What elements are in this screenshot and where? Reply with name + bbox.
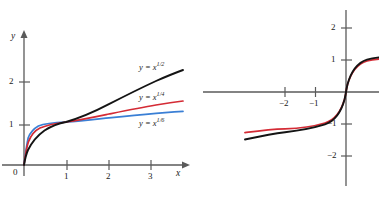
curve-label-x-pow-1-6: y = x1/6 bbox=[139, 119, 164, 128]
left-x-tick-3: 3 bbox=[148, 172, 153, 181]
right-y-tick-1: 1 bbox=[331, 55, 336, 64]
left-x-axis-label: x bbox=[176, 169, 180, 179]
curve-label-x-pow-1-2-exp: 1/2 bbox=[157, 60, 165, 67]
left-y-axis-label: y bbox=[11, 32, 15, 42]
curve-label-x-pow-1-4-lhs: y = x bbox=[139, 92, 157, 102]
right-y-tick-2: 2 bbox=[331, 23, 336, 32]
left-y-tick-1: 1 bbox=[9, 120, 14, 129]
left-panel-plot bbox=[0, 0, 195, 197]
left-x-tick-2: 2 bbox=[106, 172, 111, 181]
right-y-tick-neg1: −1 bbox=[327, 119, 337, 128]
left-axes bbox=[2, 30, 190, 176]
right-y-tick-neg2: −2 bbox=[327, 151, 337, 160]
curve-label-x-pow-1-6-exp: 1/6 bbox=[157, 116, 165, 123]
curve-label-x-pow-1-2-lhs: y = x bbox=[139, 62, 157, 72]
curve-x-pow-1-5 bbox=[245, 59, 379, 133]
even-roots-panel: y x 0 1 2 3 1 2 y = x1/2 y = x1/4 y = x1… bbox=[0, 0, 195, 197]
left-y-tick-2: 2 bbox=[9, 77, 14, 86]
right-axes bbox=[203, 10, 379, 186]
left-origin-label: 0 bbox=[13, 168, 18, 177]
curve-x-pow-1-4 bbox=[24, 101, 183, 165]
curve-label-x-pow-1-2: y = x1/2 bbox=[139, 63, 164, 72]
right-x-tick-neg2: −2 bbox=[279, 99, 289, 108]
left-x-tick-1: 1 bbox=[64, 172, 69, 181]
curve-label-x-pow-1-4: y = x1/4 bbox=[139, 93, 164, 102]
root-functions-figure: y x 0 1 2 3 1 2 y = x1/2 y = x1/4 y = x1… bbox=[0, 0, 379, 197]
odd-roots-panel: −2 −1 2 1 −1 −2 bbox=[195, 0, 379, 197]
curve-label-x-pow-1-4-exp: 1/4 bbox=[157, 90, 165, 97]
curve-label-x-pow-1-6-lhs: y = x bbox=[139, 118, 157, 128]
right-x-tick-neg1: −1 bbox=[309, 99, 319, 108]
